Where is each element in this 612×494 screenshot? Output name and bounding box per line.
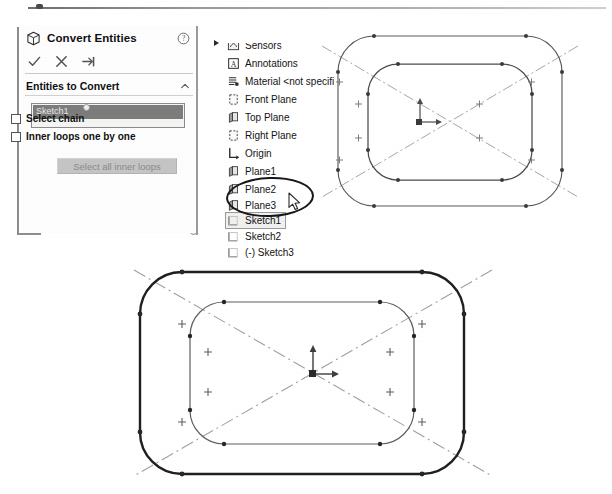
property-manager-title: Convert Entities: [47, 32, 137, 44]
pushpin-detach-icon[interactable]: [81, 54, 96, 69]
origin-axes-marker: [416, 98, 442, 125]
panel-separator-section: [25, 95, 193, 96]
cube-icon: [26, 31, 41, 46]
tree-label: Plane1: [245, 166, 276, 177]
material-icon: [227, 75, 240, 88]
tree-label: Right Plane: [245, 130, 297, 141]
plane-icon: [227, 129, 240, 142]
property-manager-action-bar: [27, 51, 96, 71]
top-divider-rule: [28, 7, 606, 9]
tree-label: Annotations: [245, 58, 298, 69]
section-title: Entities to Convert: [26, 80, 119, 92]
tree-row-sensors[interactable]: Sensors: [227, 36, 282, 54]
tree-label: Sketch2: [245, 231, 281, 242]
select-chain-label: Select chain: [26, 113, 84, 124]
top-divider-nub: [36, 4, 43, 9]
selection-box-grip[interactable]: [83, 104, 90, 111]
annotations-a-icon: A: [227, 57, 240, 70]
select-chain-checkbox-row[interactable]: Select chain: [11, 113, 84, 124]
triangle-right-icon[interactable]: [214, 40, 219, 46]
tree-row-annotations[interactable]: A Annotations: [227, 54, 298, 72]
midpoint-plus-markers: [336, 79, 535, 164]
property-manager-panel: Convert Entities ? Entities to Convert S…: [21, 26, 196, 233]
origin-axes-icon: [227, 147, 240, 160]
inner-loops-checkbox-row[interactable]: Inner loops one by one: [11, 131, 135, 142]
tree-row-origin[interactable]: Origin: [227, 144, 272, 162]
property-manager-header: Convert Entities ?: [21, 26, 196, 50]
inner-loops-checkbox[interactable]: [11, 132, 21, 142]
svg-text:A: A: [231, 59, 237, 68]
tree-row-front-plane[interactable]: Front Plane: [227, 90, 297, 108]
help-question-icon[interactable]: ?: [177, 32, 190, 45]
entities-to-convert-section-header[interactable]: Entities to Convert: [26, 77, 192, 95]
plane-solid-icon: [227, 165, 240, 178]
sketch-icon: [227, 230, 240, 243]
tree-label: Origin: [245, 148, 272, 159]
plane-icon: [227, 93, 240, 106]
x-cross-icon[interactable]: [54, 54, 69, 69]
tree-row-right-plane[interactable]: Right Plane: [227, 126, 297, 144]
select-all-inner-loops-button[interactable]: Select all inner loops: [57, 158, 177, 174]
construction-centerlines: [322, 46, 578, 197]
sketch-icon: [227, 214, 240, 227]
svg-text:?: ?: [182, 34, 185, 43]
panel-bottom-rail: [17, 233, 41, 235]
panel-separator-top: [25, 73, 193, 74]
mouse-arrow-cursor: [288, 192, 304, 214]
plane-solid-icon: [227, 111, 240, 124]
tree-label: (-) Sketch3: [245, 247, 294, 258]
chevron-up-icon[interactable]: [180, 81, 190, 91]
panel-right-rail[interactable]: [196, 26, 198, 235]
origin-axes-marker: [309, 345, 339, 377]
tree-label: Top Plane: [245, 112, 289, 123]
sensors-icon: [227, 39, 240, 52]
lower-sketch-view[interactable]: [118, 258, 508, 490]
checkmark-icon[interactable]: [27, 54, 42, 69]
tree-label: Sensors: [245, 40, 282, 51]
midpoint-plus-markers: [178, 320, 426, 426]
inner-rounded-rectangle: [190, 302, 414, 444]
tree-label: Front Plane: [245, 94, 297, 105]
inner-loops-label: Inner loops one by one: [26, 131, 135, 142]
select-chain-checkbox[interactable]: [11, 114, 21, 124]
tree-row-top-plane[interactable]: Top Plane: [227, 108, 289, 126]
upper-sketch-view[interactable]: [300, 24, 600, 219]
sketch-icon: [227, 246, 240, 259]
